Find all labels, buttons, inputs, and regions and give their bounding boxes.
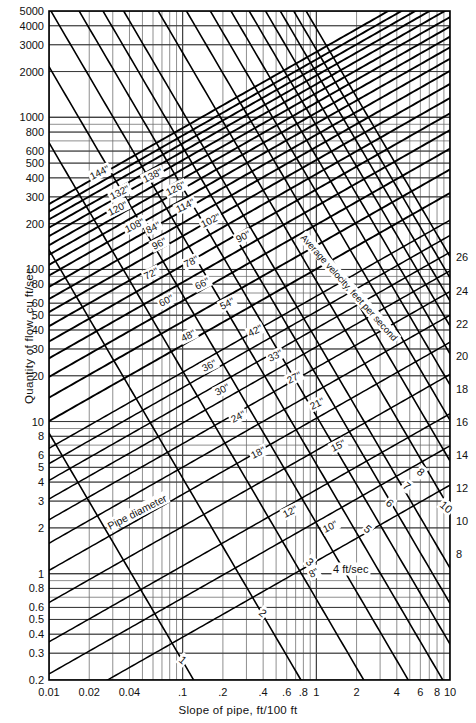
y-tick-label: 300 <box>2 191 44 203</box>
y-tick-label: 600 <box>2 145 44 157</box>
y-tick-label: 10 <box>2 416 44 428</box>
y-tick-label: 50 <box>2 309 44 321</box>
x-tick-label: .1 <box>163 686 203 698</box>
y-tick-label: 500 <box>2 157 44 169</box>
x-tick-label: 2 <box>337 686 377 698</box>
y-tick-label: 20 <box>2 370 44 382</box>
x-tick-label: 0.02 <box>69 686 109 698</box>
chart-root: 144"138"132"126"120"114"108"102"96"90"84… <box>0 0 476 723</box>
x-tick-label: .2 <box>203 686 243 698</box>
x-tick-label: 0.01 <box>29 686 69 698</box>
y-tick-label: 4000 <box>2 20 44 32</box>
y-tick-label: 60 <box>2 297 44 309</box>
y-tick-label: 0.3 <box>2 647 44 659</box>
x-tick-label: 10 <box>430 686 470 698</box>
y-tick-label: 0.5 <box>2 613 44 625</box>
right-axis-tick-label: 18 <box>456 383 476 395</box>
right-axis-tick-label: 26 <box>456 251 476 263</box>
x-axis-title: Slope of pipe, ft/100 ft <box>178 704 297 716</box>
y-axis-title: Quantity of flow, cu ft/sec <box>23 251 35 421</box>
y-tick-label: 100 <box>2 263 44 275</box>
y-tick-label: 30 <box>2 343 44 355</box>
y-tick-label: 3 <box>2 495 44 507</box>
right-axis-tick-label: 12 <box>456 482 476 494</box>
right-axis-tick-label: 20 <box>456 350 476 362</box>
x-tick-label: 1 <box>296 686 336 698</box>
right-axis-tick-label: 8 <box>456 548 476 560</box>
right-axis-tick-label: 22 <box>456 318 476 330</box>
right-axis-tick-label: 14 <box>456 449 476 461</box>
y-tick-label: 8 <box>2 430 44 442</box>
y-tick-label: 0.8 <box>2 582 44 594</box>
nomograph-svg: 144"138"132"126"120"114"108"102"96"90"84… <box>0 0 476 723</box>
y-tick-label: 0.6 <box>2 601 44 613</box>
y-tick-label: 2000 <box>2 66 44 78</box>
y-tick-label: 4 <box>2 476 44 488</box>
right-axis-tick-label: 16 <box>456 416 476 428</box>
right-axis-tick-label: 24 <box>456 285 476 297</box>
y-tick-label: 1 <box>2 568 44 580</box>
right-axis-tick-label: 10 <box>456 515 476 527</box>
velocity-contour-label: 4 ft/sec <box>333 563 369 575</box>
y-tick-label: 2 <box>2 522 44 534</box>
y-tick-label: 0.2 <box>2 674 44 686</box>
y-tick-label: 5 <box>2 461 44 473</box>
y-tick-label: 5000 <box>2 5 44 17</box>
y-tick-label: 6 <box>2 449 44 461</box>
y-tick-label: 0.4 <box>2 628 44 640</box>
y-tick-label: 80 <box>2 278 44 290</box>
y-tick-label: 200 <box>2 218 44 230</box>
y-tick-label: 400 <box>2 172 44 184</box>
x-tick-label: 0.04 <box>109 686 149 698</box>
y-tick-label: 800 <box>2 126 44 138</box>
y-tick-label: 40 <box>2 324 44 336</box>
y-tick-label: 1000 <box>2 111 44 123</box>
y-tick-label: 3000 <box>2 39 44 51</box>
